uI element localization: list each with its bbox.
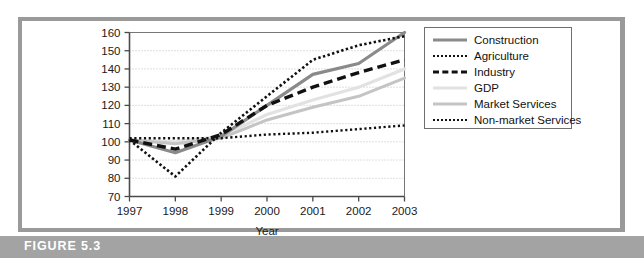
legend-entry-label: Market Services — [474, 98, 556, 111]
y-axis-tick-label: 160 — [101, 27, 120, 39]
y-axis-tick-label: 100 — [101, 136, 120, 148]
x-axis-tick-label: 2002 — [346, 205, 372, 217]
legend-line-swatch-icon — [433, 114, 467, 126]
legend-entry-label: GDP — [474, 82, 499, 95]
y-axis-tick-label: 70 — [108, 191, 121, 203]
legend-line-swatch-icon — [433, 82, 467, 94]
legend-entry[interactable]: GDP — [425, 80, 571, 96]
legend-entry-label: Industry — [474, 66, 515, 79]
legend-entry[interactable]: Agriculture — [425, 48, 571, 64]
x-axis-tick-label: 2000 — [254, 205, 280, 217]
y-axis: 708090100110120130140150160 — [101, 27, 129, 203]
legend-entry[interactable]: Industry — [425, 64, 571, 80]
y-axis-tick-label: 90 — [108, 154, 121, 166]
legend-line-swatch-icon — [433, 98, 467, 110]
x-axis-tick-label: 2003 — [392, 205, 418, 217]
legend-line-swatch-icon — [433, 34, 467, 46]
y-axis-tick-label: 140 — [101, 63, 120, 75]
chart-legend: ConstructionAgricultureIndustryGDPMarket… — [424, 27, 572, 129]
figure-caption-bar: FIGURE 5.3 — [0, 236, 644, 258]
legend-entry-label: Construction — [474, 34, 539, 47]
x-axis-tick-label: 1998 — [163, 205, 189, 217]
legend-entry-label: Agriculture — [474, 50, 529, 63]
y-axis-tick-label: 130 — [101, 81, 120, 93]
legend-entry[interactable]: Construction — [425, 32, 571, 48]
y-axis-tick-label: 80 — [108, 172, 121, 184]
data-series-group — [130, 33, 405, 177]
figure-caption-label: FIGURE 5.3 — [24, 239, 101, 253]
x-axis: 1997199819992000200120022003 — [117, 197, 418, 217]
x-axis-title: Year — [255, 225, 278, 237]
series-line-non-market-services — [130, 125, 405, 138]
figure-container: 7080901001101201301401501601997199819992… — [0, 0, 644, 265]
y-axis-tick-label: 150 — [101, 45, 120, 57]
x-axis-tick-label: 2001 — [300, 205, 326, 217]
legend-entry[interactable]: Non-market Services — [425, 112, 571, 128]
x-axis-tick-label: 1999 — [208, 205, 234, 217]
legend-entry-label: Non-market Services — [474, 114, 581, 127]
y-axis-tick-label: 120 — [101, 99, 120, 111]
legend-line-swatch-icon — [433, 50, 467, 62]
legend-line-swatch-icon — [433, 66, 467, 78]
x-axis-tick-label: 1997 — [117, 205, 143, 217]
legend-entry-list: ConstructionAgricultureIndustryGDPMarket… — [425, 28, 571, 128]
y-axis-tick-label: 110 — [102, 118, 120, 130]
series-line-market-services — [130, 78, 405, 144]
series-line-construction — [130, 33, 405, 153]
legend-entry[interactable]: Market Services — [425, 96, 571, 112]
